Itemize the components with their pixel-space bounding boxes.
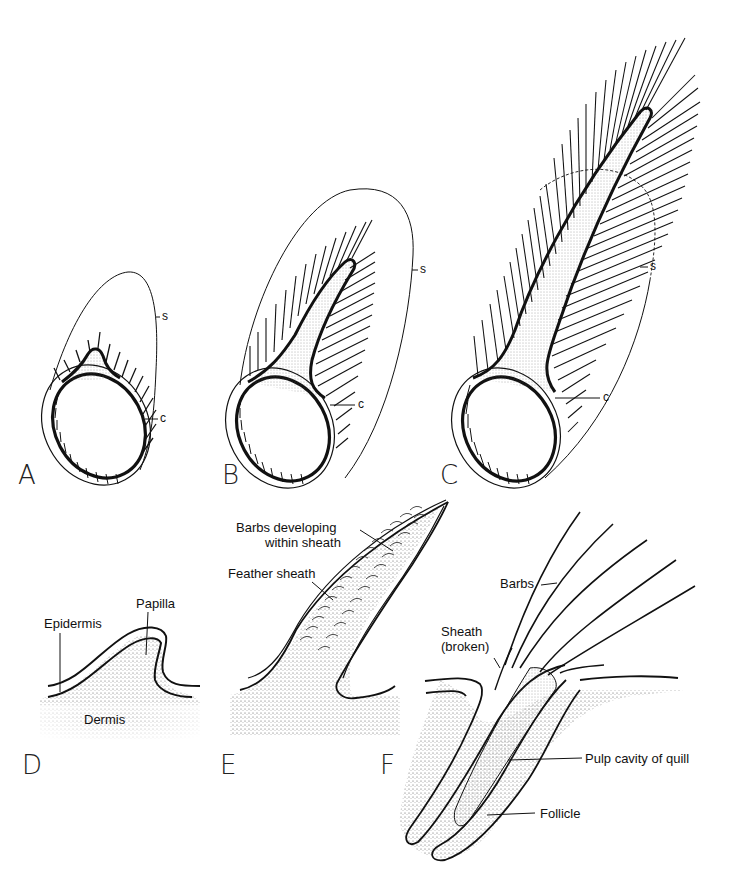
panel-f-follicle-label: Follicle: [540, 806, 580, 821]
panel-b-sheath-label: s: [420, 262, 426, 277]
panel-b-collar-label: c: [358, 397, 364, 412]
panel-e-feather-sheath-label: Feather sheath: [228, 566, 315, 581]
panel-c-collar-label: c: [603, 390, 609, 405]
panel-e-barbs-developing-label-line1: Barbs developing: [236, 520, 336, 535]
panel-label-f: F: [380, 752, 395, 778]
feather-development-diagram: [0, 0, 733, 879]
panel-f-barbs-label: Barbs: [500, 576, 534, 591]
panel-f-pulp-cavity-label: Pulp cavity of quill: [585, 751, 689, 766]
panel-d-papilla-label: Papilla: [136, 596, 175, 611]
panel-label-d: D: [22, 752, 42, 778]
panel-e-barbs-developing-label-line2: within sheath: [265, 535, 341, 550]
panel-a-collar-label: c: [160, 411, 166, 426]
panel-c-illustration: [431, 38, 700, 507]
panel-a-sheath-label: s: [162, 309, 168, 324]
panel-c-sheath-label: s: [650, 259, 656, 274]
panel-f-sheath-label-line2: (broken): [441, 639, 489, 654]
panel-label-b: B: [222, 462, 239, 488]
panel-label-e: E: [220, 752, 236, 778]
panel-a-illustration: [21, 272, 171, 504]
panel-f-sheath-label-line1: Sheath: [441, 624, 482, 639]
panel-label-a: A: [18, 462, 36, 488]
panel-label-c: C: [440, 462, 458, 488]
panel-d-dermis-label: Dermis: [84, 712, 125, 727]
panel-d-epidermis-label: Epidermis: [44, 616, 102, 631]
